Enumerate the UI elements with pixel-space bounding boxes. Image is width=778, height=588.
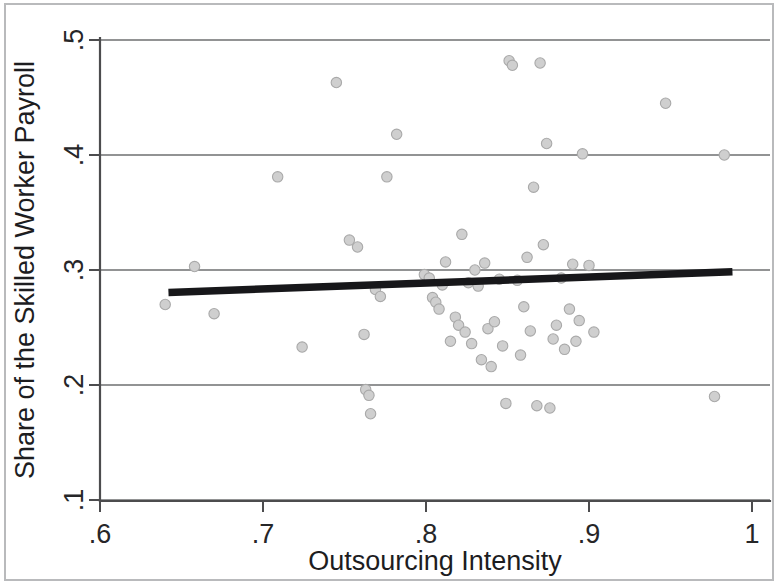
data-point <box>568 259 578 269</box>
data-point <box>352 242 362 252</box>
data-point <box>709 391 719 401</box>
data-point <box>519 302 529 312</box>
data-point <box>525 326 535 336</box>
data-point <box>457 229 467 239</box>
y-tick-label-4: .5 <box>59 29 89 52</box>
data-point <box>541 138 551 148</box>
x-axis-title: Outsourcing Intensity <box>308 546 562 576</box>
data-point <box>382 172 392 182</box>
data-point <box>564 304 574 314</box>
data-point <box>297 342 307 352</box>
data-point <box>479 258 489 268</box>
y-tick-label-2: .3 <box>59 259 89 282</box>
data-point <box>577 149 587 159</box>
x-tick-label-1: .7 <box>252 519 275 549</box>
data-point <box>375 291 385 301</box>
y-tick-label-1: .2 <box>59 374 89 397</box>
data-point <box>434 304 444 314</box>
x-axis-ticks: .6.7.8.91 <box>89 501 760 549</box>
data-point <box>486 361 496 371</box>
data-point <box>365 409 375 419</box>
data-point <box>515 350 525 360</box>
y-tick-label-3: .4 <box>59 144 89 167</box>
data-point <box>209 309 219 319</box>
data-point <box>660 98 670 108</box>
data-point <box>528 182 538 192</box>
data-point <box>460 327 470 337</box>
data-point <box>559 344 569 354</box>
data-point <box>470 265 480 275</box>
x-tick-label-2: .8 <box>415 519 438 549</box>
y-axis-title: Share of the Skilled Worker Payroll <box>10 61 40 479</box>
data-point <box>535 58 545 68</box>
x-tick-label-3: .9 <box>578 519 601 549</box>
plot-canvas: .6.7.8.91 .1.2.3.4.5 Outsourcing Intensi… <box>0 0 778 588</box>
data-point <box>440 257 450 267</box>
data-point <box>501 398 511 408</box>
data-point <box>391 129 401 139</box>
data-point <box>571 336 581 346</box>
data-point <box>522 252 532 262</box>
data-point <box>574 315 584 325</box>
x-tick-label-0: .6 <box>89 519 112 549</box>
data-point <box>497 341 507 351</box>
y-tick-label-0: .1 <box>59 489 89 512</box>
data-point <box>331 77 341 87</box>
data-point <box>466 338 476 348</box>
data-point <box>538 240 548 250</box>
x-tick-label-4: 1 <box>744 519 759 549</box>
data-point <box>507 60 517 70</box>
data-point <box>545 403 555 413</box>
data-point <box>476 355 486 365</box>
data-point <box>532 401 542 411</box>
data-point <box>359 329 369 339</box>
data-point <box>584 260 594 270</box>
data-point <box>445 336 455 346</box>
data-point <box>364 390 374 400</box>
data-points-group <box>160 56 729 419</box>
data-point <box>272 172 282 182</box>
data-point <box>548 334 558 344</box>
data-point <box>160 299 170 309</box>
data-point <box>189 261 199 271</box>
data-point <box>589 327 599 337</box>
y-axis-ticks: .1.2.3.4.5 <box>59 29 100 512</box>
data-point <box>719 150 729 160</box>
regression-fit-line <box>168 272 732 293</box>
gridlines-group <box>100 40 770 500</box>
data-point <box>551 320 561 330</box>
scatter-plot-figure: .6.7.8.91 .1.2.3.4.5 Outsourcing Intensi… <box>0 0 778 588</box>
data-point <box>489 317 499 327</box>
